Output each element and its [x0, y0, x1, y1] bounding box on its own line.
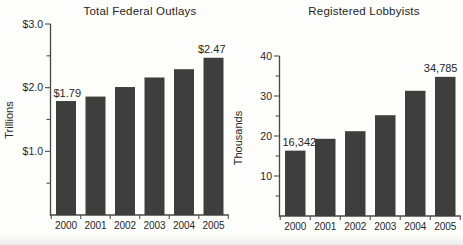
y-tick-label: 10	[260, 170, 272, 182]
bar-value-label-first: 16,342	[283, 136, 317, 148]
bar-2001	[315, 139, 336, 216]
left-chart-plot: $1.0$2.0$3.0200020012002200320042005$1.7…	[23, 18, 229, 231]
x-label-2000: 2000	[55, 220, 78, 231]
bar-value-label-last: 34,785	[424, 62, 458, 74]
x-label-2005: 2005	[434, 221, 457, 232]
y-tick-label: 40	[260, 50, 272, 62]
x-label-2001: 2001	[314, 221, 337, 232]
y-tick-label: $3.0	[23, 18, 44, 30]
bar-2003	[375, 115, 396, 216]
bar-2000	[56, 101, 76, 215]
bar-value-label-first: $1.79	[54, 87, 82, 99]
bar-2004	[405, 91, 426, 216]
bar-value-label-last: $2.47	[198, 43, 226, 55]
bar-2002	[115, 87, 135, 215]
x-label-2004: 2004	[173, 220, 196, 231]
y-tick-label: 20	[260, 130, 272, 142]
x-label-2002: 2002	[344, 221, 367, 232]
right-chart-plot: 1020304020002001200220032004200516,34234…	[260, 50, 460, 232]
right-chart-title: Registered Lobbyists	[308, 5, 419, 17]
left-chart-title: Total Federal Outlays	[84, 5, 197, 17]
x-label-2004: 2004	[404, 221, 427, 232]
x-label-2001: 2001	[84, 220, 107, 231]
x-label-2000: 2000	[284, 221, 307, 232]
left-y-axis-title: Trillions	[3, 101, 15, 139]
dual-bar-chart-figure: Total Federal Outlays Registered Lobbyis…	[0, 0, 463, 245]
y-tick-label: $2.0	[23, 81, 44, 93]
bar-2004	[174, 69, 194, 215]
bar-2005	[204, 58, 224, 215]
y-tick-label: $1.0	[23, 145, 44, 157]
bar-2000	[285, 151, 306, 216]
y-tick-label: 30	[260, 90, 272, 102]
bar-2001	[86, 97, 106, 215]
right-y-axis-title: Thousands	[232, 110, 244, 165]
x-label-2005: 2005	[202, 220, 225, 231]
bar-2005	[435, 77, 456, 216]
bar-2003	[145, 77, 165, 215]
x-label-2003: 2003	[374, 221, 397, 232]
bar-2002	[345, 131, 366, 216]
x-label-2003: 2003	[143, 220, 166, 231]
x-label-2002: 2002	[114, 220, 137, 231]
bar-charts-canvas: Total Federal Outlays Registered Lobbyis…	[0, 0, 463, 245]
